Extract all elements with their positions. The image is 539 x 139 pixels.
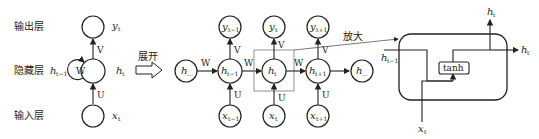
output-node <box>82 16 104 38</box>
unfold-arrow-icon <box>136 62 162 78</box>
svg-text:W: W <box>294 58 304 68</box>
svg-text:V: V <box>233 45 241 55</box>
svg-text:W: W <box>201 58 211 68</box>
unfold-label: 展开 <box>138 51 158 62</box>
input-node <box>82 105 104 127</box>
svg-text:t−1: t−1 <box>227 70 238 77</box>
weight-w-label: W <box>76 66 86 76</box>
svg-text:t: t <box>527 49 530 56</box>
svg-text:y: y <box>268 21 275 32</box>
weight-u-label: U <box>97 90 105 100</box>
svg-text:t: t <box>118 115 121 122</box>
weight-v-label: V <box>96 45 104 55</box>
svg-text:y: y <box>309 21 316 32</box>
svg-text:V: V <box>277 40 285 50</box>
y-label: y <box>111 20 118 31</box>
hidden-layer-label: 隐藏层 <box>14 65 44 76</box>
svg-text:t: t <box>424 128 427 135</box>
svg-text:y: y <box>221 21 228 32</box>
svg-text:t+1: t+1 <box>315 70 326 77</box>
input-layer-label: 输入层 <box>14 109 44 121</box>
svg-text:t−1: t−1 <box>228 26 239 33</box>
zoom-label: 放大 <box>343 30 363 42</box>
svg-text:t−1: t−1 <box>228 115 239 122</box>
svg-text:W: W <box>244 58 254 68</box>
svg-text:t+1: t+1 <box>316 26 327 33</box>
svg-text:U: U <box>322 90 330 100</box>
tanh-label: tanh <box>443 63 464 73</box>
rnn-diagram: 输出层 隐藏层 输入层 W V U y t h t h t−1 x t 展开 h… <box>0 0 539 139</box>
svg-text:t: t <box>122 70 125 77</box>
svg-text:t: t <box>118 25 121 32</box>
svg-text:t−1: t−1 <box>387 57 398 64</box>
svg-text:t−1: t−1 <box>56 70 67 77</box>
svg-text:…: … <box>362 70 368 77</box>
svg-text:U: U <box>234 90 242 100</box>
folded-rnn: W V U y t h t h t−1 x t <box>50 16 125 127</box>
output-layer-label: 输出层 <box>14 20 44 32</box>
rnn-cell-detail: h t−1 x t tanh h t h t <box>381 6 530 135</box>
svg-text:t+1: t+1 <box>316 115 327 122</box>
svg-text:U: U <box>278 93 286 103</box>
svg-text:t: t <box>493 11 496 18</box>
svg-text:…: … <box>187 70 193 77</box>
